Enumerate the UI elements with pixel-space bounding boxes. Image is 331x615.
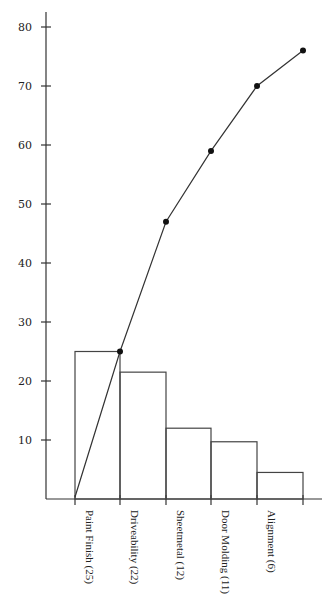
bar	[120, 372, 166, 499]
y-tick-label: 80	[18, 21, 32, 34]
category-label: Alignment (6)	[265, 510, 278, 573]
category-label: Sheetmetal (12)	[174, 510, 187, 580]
y-tick-label: 70	[18, 80, 32, 93]
bar	[257, 472, 303, 499]
cumulative-point	[117, 349, 123, 355]
y-tick-label: 60	[18, 139, 32, 152]
cumulative-point	[300, 48, 306, 54]
y-tick-label: 50	[18, 198, 32, 211]
bar	[166, 428, 211, 499]
cumulative-point	[208, 148, 214, 154]
cumulative-point	[163, 219, 169, 225]
category-labels: Paint Finish (25)Driveability (22)Sheetm…	[83, 510, 279, 594]
y-axis: 1020304050607080	[18, 12, 51, 499]
y-tick-label: 10	[18, 434, 32, 447]
cumulative-point	[254, 83, 260, 89]
bar	[211, 442, 257, 499]
cumulative-line	[75, 51, 303, 497]
y-tick-label: 40	[18, 257, 32, 270]
x-axis	[46, 495, 322, 505]
category-label: Paint Finish (25)	[83, 510, 96, 584]
pareto-chart: 1020304050607080 Paint Finish (25)Drivea…	[0, 0, 331, 615]
y-tick-label: 30	[18, 316, 32, 329]
category-label: Driveability (22)	[128, 510, 141, 585]
bar-series	[75, 352, 303, 500]
y-tick-label: 20	[18, 375, 32, 388]
cumulative-line-series	[75, 48, 306, 497]
category-label: Door Molding (11)	[219, 510, 232, 594]
